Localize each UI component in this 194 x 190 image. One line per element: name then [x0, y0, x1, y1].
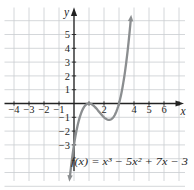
x-tick-label: 5	[146, 104, 151, 115]
y-tick-label: 5	[65, 29, 70, 40]
y-axis-label: y	[63, 6, 70, 19]
y-tick-label: 2	[65, 71, 70, 82]
y-axis-arrowhead	[71, 8, 77, 17]
plot-canvas: −4−3−2−1245654321−1−2−3 y x f(x) = x³ − …	[0, 0, 194, 190]
x-tick-label: −3	[23, 104, 34, 115]
curve-arrowhead-down	[67, 175, 72, 182]
y-tick-label: −1	[59, 112, 70, 123]
curve-path	[70, 20, 131, 176]
y-tick-label: −3	[59, 140, 70, 151]
x-tick-label: −2	[38, 104, 49, 115]
x-tick-label: 4	[131, 104, 137, 115]
function-formula: f(x) = x³ − 5x² + 7x − 3	[71, 155, 189, 168]
y-tick-label: −2	[59, 126, 70, 137]
x-tick-label: 6	[161, 104, 166, 115]
axes	[5, 8, 185, 172]
y-tick-label: 1	[65, 84, 70, 95]
x-axis-label: x	[180, 105, 187, 117]
y-tick-label: 4	[65, 43, 71, 54]
y-tick-label: 3	[65, 57, 70, 68]
x-tick-label: −4	[8, 104, 20, 115]
x-tick-label: 2	[101, 104, 106, 115]
curve-arrowhead-up	[128, 15, 133, 22]
cubic-function-graph: −4−3−2−1245654321−1−2−3 y x f(x) = x³ − …	[0, 0, 194, 190]
